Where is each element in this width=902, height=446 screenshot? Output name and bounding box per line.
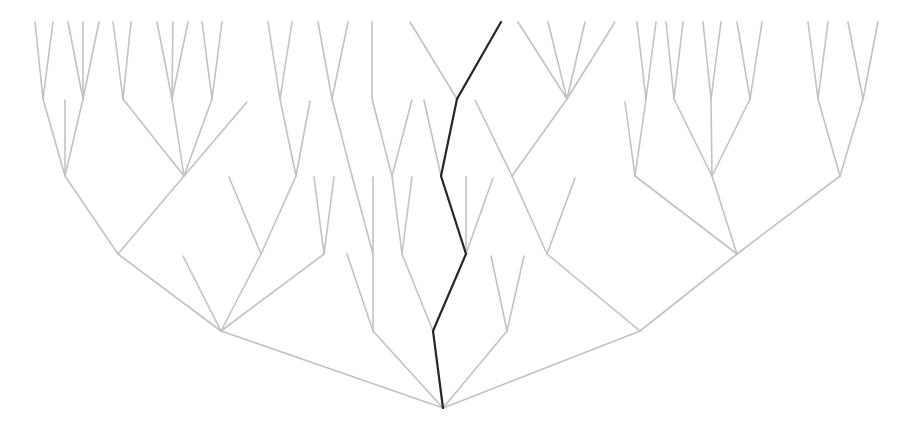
tree-edge	[466, 178, 493, 254]
tree-edge	[737, 22, 750, 99]
tree-edge	[68, 22, 83, 99]
tree-edge	[491, 256, 507, 331]
tree-edge	[296, 101, 310, 176]
tree-edge	[548, 22, 567, 99]
tree-edge	[280, 99, 296, 176]
tree-edge	[547, 254, 640, 331]
tree-edge	[229, 177, 261, 254]
tree-edge	[212, 22, 222, 99]
tree-edge	[123, 99, 184, 176]
tree-edge	[402, 254, 433, 331]
tree-edge	[818, 22, 828, 99]
tree-edge	[674, 22, 683, 99]
tree-edge	[184, 99, 212, 176]
tree-edge	[172, 22, 173, 99]
tree-edge	[703, 22, 711, 99]
tree-edge	[43, 22, 53, 99]
tree-edge	[410, 22, 457, 99]
tree-edge	[314, 177, 324, 254]
tree-edge	[392, 176, 402, 254]
tree-edge	[737, 176, 840, 254]
tree-edge	[157, 22, 172, 99]
tree-edge	[221, 254, 324, 331]
tree-edge	[184, 102, 247, 176]
tree-edge	[83, 22, 99, 99]
tree-edge	[424, 100, 441, 176]
tree-edge	[625, 102, 635, 176]
tree-edge	[808, 22, 818, 99]
tree-edge	[43, 99, 65, 176]
tree-edge	[567, 22, 615, 99]
tree-edge	[547, 178, 575, 254]
tree-edges	[35, 22, 878, 408]
tree-edge	[372, 99, 392, 176]
tree-edge	[123, 22, 131, 99]
tree-edge	[635, 176, 737, 254]
tree-edge	[637, 22, 646, 99]
tree-edge	[640, 254, 737, 331]
tree-edge	[818, 99, 840, 176]
tree-edge	[711, 99, 712, 176]
tree-edge	[674, 99, 712, 176]
tree-edge	[202, 22, 212, 99]
tree-edge	[512, 99, 567, 176]
tree-edge	[666, 22, 674, 99]
tree-edge	[268, 22, 280, 99]
tree-edge	[392, 100, 412, 176]
tree-edge	[863, 22, 878, 99]
tree-edge	[512, 176, 547, 254]
tree-edge	[172, 22, 188, 99]
tree-edge	[261, 176, 296, 254]
tree-edge	[113, 22, 123, 99]
tree-edge	[840, 99, 863, 176]
tree-edge	[172, 99, 184, 176]
tree-diagram	[0, 0, 902, 446]
tree-edge	[352, 176, 373, 254]
tree-edge	[567, 22, 585, 99]
tree-edge	[318, 22, 332, 99]
tree-edge	[402, 177, 412, 254]
tree-edge	[118, 254, 221, 331]
tree-edge	[712, 99, 750, 176]
tree-edge	[280, 22, 292, 99]
tree-edge	[65, 99, 83, 176]
tree-edge	[35, 22, 43, 99]
tree-edge	[347, 254, 373, 331]
tree-edge	[332, 99, 352, 176]
tree-edge	[507, 256, 524, 331]
tree-edge	[443, 331, 507, 408]
tree-edge	[848, 22, 863, 99]
tree-edge	[518, 22, 567, 99]
tree-edge	[324, 177, 334, 254]
tree-edge	[221, 254, 261, 331]
tree-edge	[65, 176, 118, 254]
tree-edge	[646, 22, 656, 99]
tree-edge	[711, 22, 721, 99]
tree-edge	[332, 22, 348, 99]
tree-edge	[750, 22, 762, 99]
tree-edge	[635, 99, 646, 176]
tree-edge	[475, 100, 512, 176]
tree-edge	[712, 176, 737, 254]
tree-edge	[183, 256, 221, 331]
tree-edge	[118, 176, 184, 254]
tree-edge	[221, 331, 443, 408]
tree-edge	[443, 331, 640, 408]
